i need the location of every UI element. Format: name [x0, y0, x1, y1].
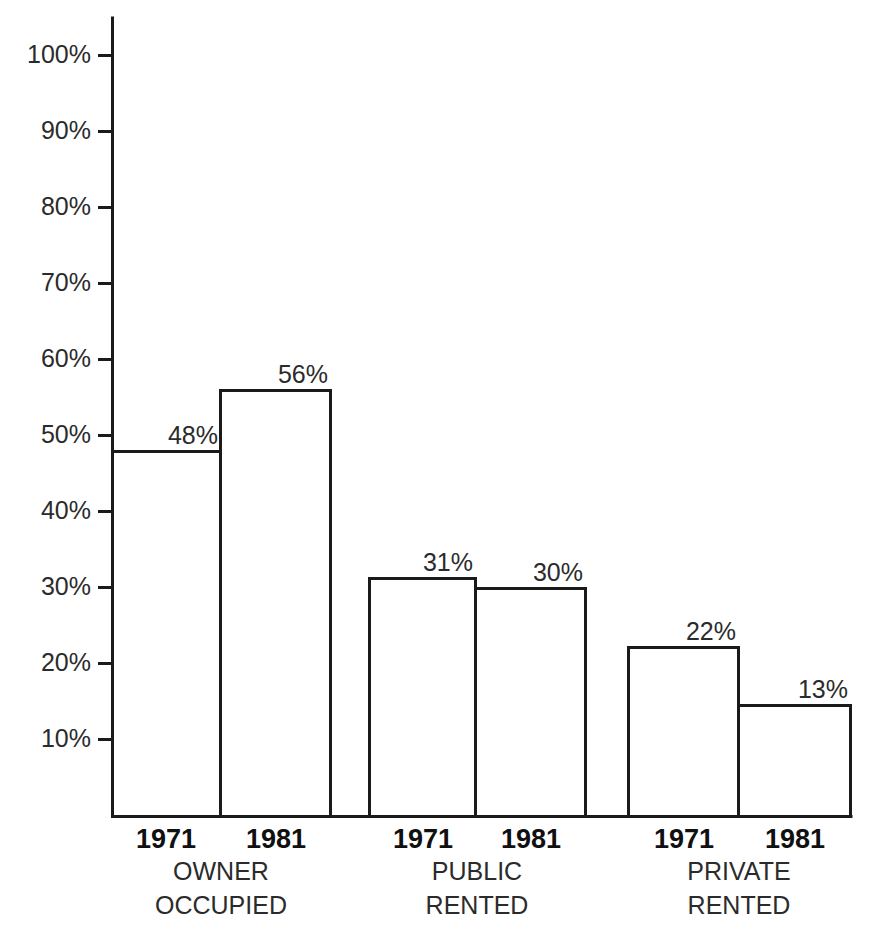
year-label-public-rented-1981: 1981 [501, 824, 561, 854]
year-label-private-rented-1971: 1971 [654, 824, 714, 854]
bar-owner-occupied-1981[interactable] [221, 391, 331, 817]
group-label-owner-occupied-line1: OWNER [173, 857, 269, 885]
bar-private-rented-1971[interactable] [629, 648, 739, 817]
bar-public-rented-1971[interactable] [370, 579, 476, 817]
group-label-public-rented-line2: RENTED [426, 891, 529, 919]
y-tick-label-10: 10% [41, 724, 91, 752]
x-axis-group-labels: OWNER OCCUPIED PUBLIC RENTED PRIVATE REN… [155, 857, 791, 919]
bar-private-rented-1981[interactable] [739, 706, 851, 817]
value-label-owner-occupied-1981: 56% [278, 360, 328, 388]
bar-owner-occupied-1971[interactable] [113, 452, 221, 817]
year-label-owner-occupied-1971: 1971 [136, 824, 196, 854]
y-tick-label-70: 70% [41, 268, 91, 296]
year-label-private-rented-1981: 1981 [765, 824, 825, 854]
value-label-owner-occupied-1971: 48% [168, 421, 218, 449]
y-tick-label-40: 40% [41, 496, 91, 524]
y-tick-label-100: 100% [27, 40, 91, 68]
value-label-private-rented-1971: 22% [686, 617, 736, 645]
y-axis-ticks [98, 56, 112, 740]
value-label-public-rented-1981: 30% [533, 558, 583, 586]
bar-chart-figure: 100% 90% 80% 70% 60% 50% 40% 30% 20% 10%… [0, 0, 894, 933]
y-tick-label-30: 30% [41, 572, 91, 600]
year-label-public-rented-1971: 1971 [393, 824, 453, 854]
y-tick-label-20: 20% [41, 648, 91, 676]
group-label-private-rented-line2: RENTED [688, 891, 791, 919]
group-label-public-rented-line1: PUBLIC [432, 857, 522, 885]
value-label-public-rented-1971: 31% [423, 548, 473, 576]
chart-canvas: 100% 90% 80% 70% 60% 50% 40% 30% 20% 10%… [0, 0, 894, 933]
bar-public-rented-1981[interactable] [476, 589, 586, 817]
x-axis-year-labels: 1971 1981 1971 1981 1971 1981 [136, 824, 825, 854]
y-tick-label-50: 50% [41, 420, 91, 448]
value-label-private-rented-1981: 13% [798, 675, 848, 703]
y-axis-tick-labels: 100% 90% 80% 70% 60% 50% 40% 30% 20% 10% [27, 40, 91, 752]
y-tick-label-90: 90% [41, 116, 91, 144]
group-label-owner-occupied-line2: OCCUPIED [155, 891, 287, 919]
group-label-private-rented-line1: PRIVATE [687, 857, 790, 885]
y-tick-label-60: 60% [41, 344, 91, 372]
y-tick-label-80: 80% [41, 192, 91, 220]
bar-series [113, 391, 851, 817]
year-label-owner-occupied-1981: 1981 [246, 824, 306, 854]
